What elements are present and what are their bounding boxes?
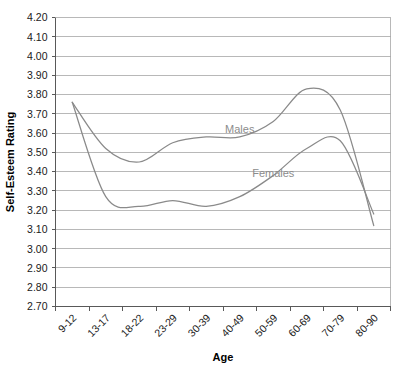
y-tick-label: 2.70 [27,300,48,312]
y-tick-label: 4.00 [27,50,48,62]
y-tick-label: 3.60 [27,127,48,139]
series-layer [72,88,374,226]
y-tick-label: 4.20 [27,11,48,23]
x-tick-labels: 9-1213-1718-2223-2930-3940-4950-5960-697… [55,311,380,339]
x-tick-label: 13-17 [85,311,113,339]
y-tick-label: 2.90 [27,262,48,274]
x-axis-title: Age [213,351,234,363]
series-line-females [72,102,374,214]
x-tick-label: 60-69 [286,311,314,339]
y-gridlines: 4.204.104.003.903.803.703.603.503.403.30… [27,11,390,312]
series-label-females: Females [252,167,295,179]
x-tick-marks [56,307,391,311]
y-tick-label: 3.30 [27,185,48,197]
y-axis-title: Self-Esteem Rating [4,112,16,212]
series-line-males [72,88,374,226]
y-tick-label: 3.00 [27,243,48,255]
series-label-males: Males [225,123,255,135]
y-tick-label: 3.80 [27,88,48,100]
x-tick-label: 50-59 [252,311,280,339]
self-esteem-line-chart: 4.204.104.003.903.803.703.603.503.403.30… [0,0,401,368]
x-tick-label: 70-79 [319,311,347,339]
y-tick-label: 3.10 [27,223,48,235]
plot-area-border [56,18,391,307]
y-tick-label: 4.10 [27,31,48,43]
x-tick-label: 30-39 [185,311,213,339]
y-tick-label: 3.40 [27,165,48,177]
y-tick-label: 3.20 [27,204,48,216]
x-tick-label: 80-90 [353,311,381,339]
x-tick-label: 40-49 [219,311,247,339]
y-tick-label: 3.90 [27,69,48,81]
x-tick-label: 9-12 [55,311,78,334]
chart-canvas: 4.204.104.003.903.803.703.603.503.403.30… [0,0,401,368]
x-tick-label: 23-29 [152,311,180,339]
y-tick-label: 3.70 [27,108,48,120]
x-tick-label: 18-22 [118,311,146,339]
y-tick-label: 3.50 [27,146,48,158]
y-tick-label: 2.80 [27,281,48,293]
series-annotations: MalesFemales [225,123,295,179]
